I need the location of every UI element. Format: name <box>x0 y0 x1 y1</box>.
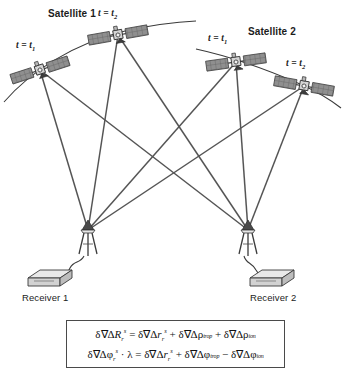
equation-box: δ∇ΔRrs = δ∇Δrrs + δ∇Δρtrop + δ∇Δρion δ∇Δ… <box>66 320 285 368</box>
signal-line <box>236 62 248 230</box>
epoch-label-sat2-t2: t = t2 <box>286 58 305 70</box>
satellite-icon-sat1-t2 <box>87 21 149 48</box>
signal-line <box>40 70 248 230</box>
epoch-label-sat1-t1: t = t1 <box>16 40 35 52</box>
receiver-1-label: Receiver 1 <box>22 292 68 303</box>
signal-lines-group <box>40 35 304 230</box>
satellite-1-label: Satellite 1 <box>48 8 96 19</box>
satellite-geometry-diagram: Satellite 1 Satellite 2 t = t1 t = t2 t … <box>0 0 344 372</box>
equation-line-2: δ∇Δφrs · λ = δ∇Δrrs + δ∇Δφtrop − δ∇Δφion <box>67 347 284 362</box>
orbit-path-satellite-2 <box>196 49 341 108</box>
epoch-label-sat1-t2: t = t2 <box>98 8 117 20</box>
satellite-2-label: Satellite 2 <box>248 26 296 37</box>
epoch-label-sat2-t1: t = t1 <box>208 33 227 45</box>
signal-line <box>40 70 88 230</box>
receiver-2-label: Receiver 2 <box>250 292 296 303</box>
equation-line-1: δ∇ΔRrs = δ∇Δrrs + δ∇Δρtrop + δ∇Δρion <box>67 327 284 342</box>
receiver-unit-1 <box>28 270 72 286</box>
receiver-unit-2 <box>250 270 294 286</box>
satellite-icon-sat2-t1 <box>205 49 267 74</box>
diagram-canvas <box>0 0 344 372</box>
satellite-icon-sat1-t1 <box>9 52 71 87</box>
signal-line <box>248 86 304 230</box>
